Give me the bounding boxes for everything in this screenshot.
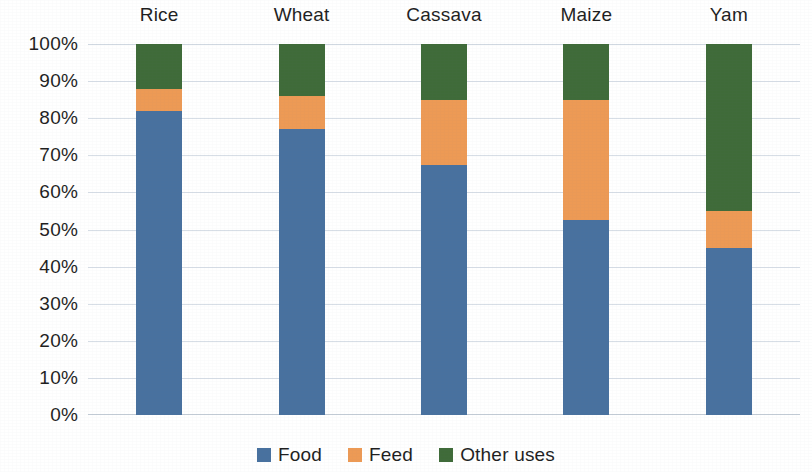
- bar-segment-maize-feed[interactable]: [563, 100, 609, 221]
- y-axis-tick-label: 80%: [0, 108, 78, 128]
- category-label-yam: Yam: [659, 2, 799, 28]
- y-axis-tick-label: 90%: [0, 71, 78, 91]
- bar-group-yam[interactable]: [699, 44, 759, 415]
- bar-group-maize[interactable]: [556, 44, 616, 415]
- bar-segment-wheat-feed[interactable]: [279, 96, 325, 129]
- bar-segment-cassava-feed[interactable]: [421, 100, 467, 165]
- bar-segment-wheat-food[interactable]: [279, 129, 325, 415]
- legend-label: Other uses: [460, 444, 555, 466]
- category-axis: RiceWheatCassavaMaizeYam: [88, 2, 800, 32]
- y-axis-tick-label: 70%: [0, 145, 78, 165]
- bar-segment-cassava-food[interactable]: [421, 165, 467, 415]
- plot-area: [88, 44, 800, 415]
- bar-segment-cassava-other-uses[interactable]: [421, 44, 467, 100]
- bar-segment-yam-feed[interactable]: [706, 211, 752, 248]
- bar-segment-yam-other-uses[interactable]: [706, 44, 752, 211]
- legend-swatch-icon: [439, 448, 453, 462]
- legend-item-food[interactable]: Food: [257, 444, 322, 466]
- stacked-bar-rice[interactable]: [136, 44, 182, 415]
- bar-group-rice[interactable]: [129, 44, 189, 415]
- legend-item-feed[interactable]: Feed: [348, 444, 413, 466]
- bar-segment-maize-food[interactable]: [563, 220, 609, 415]
- category-label-wheat: Wheat: [232, 2, 372, 28]
- category-label-maize: Maize: [516, 2, 656, 28]
- bar-segment-rice-food[interactable]: [136, 111, 182, 415]
- legend-item-other-uses[interactable]: Other uses: [439, 444, 555, 466]
- chart-legend: FoodFeedOther uses: [0, 440, 812, 470]
- bar-segment-maize-other-uses[interactable]: [563, 44, 609, 100]
- bar-segment-wheat-other-uses[interactable]: [279, 44, 325, 96]
- category-label-cassava: Cassava: [374, 2, 514, 28]
- stacked-bar-maize[interactable]: [563, 44, 609, 415]
- y-axis: 100%90%80%70%60%50%40%30%20%10%0%: [0, 0, 86, 472]
- legend-label: Feed: [369, 444, 413, 466]
- bar-segment-rice-other-uses[interactable]: [136, 44, 182, 89]
- category-label-rice: Rice: [89, 2, 229, 28]
- y-axis-tick-label: 60%: [0, 182, 78, 202]
- y-axis-tick-label: 40%: [0, 257, 78, 277]
- stacked-bar-cassava[interactable]: [421, 44, 467, 415]
- stacked-bar-yam[interactable]: [706, 44, 752, 415]
- y-axis-tick-label: 10%: [0, 368, 78, 388]
- legend-swatch-icon: [348, 448, 362, 462]
- y-axis-tick-label: 30%: [0, 294, 78, 314]
- bar-segment-yam-food[interactable]: [706, 248, 752, 415]
- y-axis-tick-label: 20%: [0, 331, 78, 351]
- bar-group-wheat[interactable]: [272, 44, 332, 415]
- y-axis-tick-label: 0%: [0, 405, 78, 425]
- y-axis-tick-label: 100%: [0, 34, 78, 54]
- stacked-bar-chart: RiceWheatCassavaMaizeYam 100%90%80%70%60…: [0, 0, 812, 472]
- legend-swatch-icon: [257, 448, 271, 462]
- bar-group-cassava[interactable]: [414, 44, 474, 415]
- bar-segment-rice-feed[interactable]: [136, 89, 182, 111]
- legend-label: Food: [278, 444, 322, 466]
- stacked-bar-wheat[interactable]: [279, 44, 325, 415]
- y-axis-tick-label: 50%: [0, 220, 78, 240]
